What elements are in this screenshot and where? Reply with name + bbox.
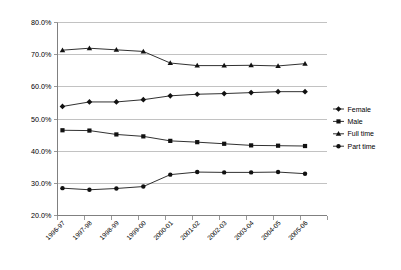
series-line: [62, 92, 305, 107]
x-tick-labels-group: 1996-971997-981998-991999-002000-012001-…: [44, 219, 309, 241]
legend: FemaleMaleFull timePart time: [333, 106, 376, 150]
series-full-time: [60, 46, 308, 68]
x-tick-label: 2003-04: [233, 219, 255, 241]
data-point-marker: [336, 106, 342, 112]
data-point-marker: [221, 91, 227, 97]
data-point-marker: [141, 134, 145, 138]
data-point-marker: [114, 132, 118, 136]
chart-canvas: 80.0%70.0%60.0%50.0%40.0%30.0%20.0% 1996…: [0, 0, 401, 270]
series-male: [60, 128, 307, 148]
y-tick-label: 30.0%: [31, 179, 52, 188]
data-point-marker: [249, 170, 253, 174]
series-line: [62, 48, 305, 66]
data-point-marker: [222, 142, 226, 146]
data-point-marker: [60, 104, 66, 110]
data-point-marker: [302, 89, 308, 95]
data-point-marker: [303, 171, 307, 175]
y-tick-label: 40.0%: [31, 147, 52, 156]
data-point-marker: [195, 140, 199, 144]
data-point-marker: [60, 186, 64, 190]
y-tick-label: 60.0%: [31, 82, 52, 91]
series-female: [60, 89, 308, 109]
data-point-marker: [336, 119, 340, 123]
legend-label: Full time: [348, 130, 375, 137]
data-point-marker: [336, 144, 340, 148]
legend-label: Female: [348, 106, 371, 113]
data-point-marker: [168, 139, 172, 143]
data-point-marker: [248, 90, 254, 96]
y-tick-label: 70.0%: [31, 50, 52, 59]
legend-item-female[interactable]: Female: [333, 106, 371, 113]
data-point-marker: [87, 188, 91, 192]
x-tick-label: 2000-01: [152, 219, 174, 241]
legend-item-full-time[interactable]: Full time: [333, 130, 374, 137]
data-point-marker: [303, 144, 307, 148]
y-tick-label: 20.0%: [31, 211, 52, 220]
x-axis-group: [58, 216, 328, 220]
legend-label: Male: [348, 118, 363, 125]
y-tick-label: 80.0%: [31, 18, 52, 27]
data-point-marker: [140, 97, 146, 103]
gridlines-group: [58, 23, 328, 216]
data-point-marker: [60, 128, 64, 132]
data-point-marker: [114, 99, 120, 105]
y-axis-group: [54, 23, 58, 216]
legend-item-part-time[interactable]: Part time: [333, 143, 376, 150]
series-part-time: [60, 170, 307, 192]
data-point-marker: [276, 170, 280, 174]
x-tick-label: 2002-03: [206, 219, 228, 241]
series-line: [62, 130, 305, 146]
data-point-marker: [194, 91, 200, 97]
data-point-marker: [114, 186, 118, 190]
data-point-marker: [141, 184, 145, 188]
x-tick-label: 1999-00: [125, 219, 147, 241]
data-point-marker: [195, 170, 199, 174]
y-tick-label: 50.0%: [31, 115, 52, 124]
data-point-marker: [222, 170, 226, 174]
legend-item-male[interactable]: Male: [333, 118, 363, 125]
data-point-marker: [249, 143, 253, 147]
data-point-marker: [87, 46, 92, 51]
data-point-marker: [167, 93, 173, 99]
data-point-marker: [302, 61, 307, 66]
series-line: [62, 172, 305, 190]
x-tick-label: 1998-99: [98, 219, 120, 241]
x-tick-label: 2004-05: [260, 219, 282, 241]
data-point-marker: [275, 89, 281, 95]
y-tick-labels-group: 80.0%70.0%60.0%50.0%40.0%30.0%20.0%: [31, 18, 52, 220]
data-point-marker: [87, 128, 91, 132]
data-point-marker: [87, 99, 93, 105]
legend-label: Part time: [348, 143, 376, 150]
x-tick-label: 1997-98: [71, 219, 93, 241]
data-point-marker: [168, 172, 172, 176]
line-chart: 80.0%70.0%60.0%50.0%40.0%30.0%20.0% 1996…: [0, 0, 401, 270]
x-tick-label: 1996-97: [44, 219, 66, 241]
x-tick-label: 2005-06: [287, 219, 309, 241]
x-tick-label: 2001-02: [179, 219, 201, 241]
data-point-marker: [276, 144, 280, 148]
